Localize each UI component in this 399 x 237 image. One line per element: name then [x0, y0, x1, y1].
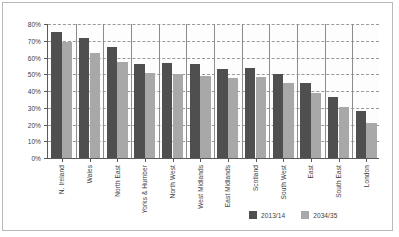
legend-label: 2013/14: [261, 212, 285, 219]
x-axis-tick: [311, 158, 312, 162]
gridline: [48, 158, 379, 159]
bar-series-2013-14: [245, 68, 255, 158]
x-axis-tick: [339, 158, 340, 162]
legend-item: 2013/14: [249, 211, 285, 219]
y-axis-tick: [44, 41, 48, 42]
bar-series-2034-35: [90, 53, 100, 158]
bar-series-2013-14: [217, 69, 227, 158]
x-axis-label: East: [307, 165, 314, 178]
y-axis-label: 80%: [28, 21, 41, 28]
category-separator: [297, 24, 298, 158]
y-axis-tick: [44, 91, 48, 92]
category-separator: [159, 24, 160, 158]
y-axis-label: 60%: [28, 54, 41, 61]
bar-series-2034-35: [117, 62, 127, 158]
x-axis-label: Yorks & Humber: [141, 165, 148, 213]
legend-swatch-icon: [249, 211, 257, 219]
y-axis-label: 30%: [28, 104, 41, 111]
category-separator: [269, 24, 270, 158]
bar-series-2013-14: [162, 63, 172, 158]
bar-series-2034-35: [200, 76, 210, 158]
y-axis-tick: [44, 108, 48, 109]
bar-series-2013-14: [134, 64, 144, 159]
x-axis-tick: [228, 158, 229, 162]
category-separator: [103, 24, 104, 158]
x-axis-tick: [173, 158, 174, 162]
chart-screenshot: 0%10%20%30%40%50%60%70%80% N. IrelandWal…: [0, 0, 399, 237]
category-separator: [131, 24, 132, 158]
figure-frame: 0%10%20%30%40%50%60%70%80% N. IrelandWal…: [2, 2, 393, 231]
legend-swatch-icon: [301, 211, 309, 219]
y-axis-label: 10%: [28, 138, 41, 145]
bar-series-2034-35: [311, 93, 321, 158]
y-axis-tick: [44, 158, 48, 159]
bar-series-2013-14: [107, 47, 117, 158]
bar-series-2034-35: [339, 107, 349, 158]
category-separator: [76, 24, 77, 158]
x-axis-label: North East: [114, 165, 121, 197]
x-axis-label: West Midlands: [197, 165, 204, 209]
x-axis-tick: [117, 158, 118, 162]
y-axis-tick: [44, 74, 48, 75]
y-axis-label: 70%: [28, 37, 41, 44]
x-axis-label: East Midlands: [224, 165, 231, 207]
x-axis-label: Scotland: [252, 165, 259, 191]
x-axis-tick: [90, 158, 91, 162]
x-axis-tick: [256, 158, 257, 162]
y-axis-label: 20%: [28, 121, 41, 128]
bar-series-2034-35: [366, 123, 376, 158]
x-axis-label: London: [363, 165, 370, 187]
x-axis-tick: [145, 158, 146, 162]
x-axis-label: South East: [335, 165, 342, 198]
category-separator: [352, 24, 353, 158]
bar-series-2034-35: [228, 78, 238, 158]
category-separator: [214, 24, 215, 158]
y-axis-label: 0%: [31, 155, 41, 162]
category-separator: [242, 24, 243, 158]
bar-series-2013-14: [273, 74, 283, 158]
x-axis-label: Wales: [86, 165, 93, 183]
bar-series-2013-14: [79, 38, 89, 158]
chart-legend: 2013/142034/35: [249, 211, 337, 219]
x-axis-label: N. Ireland: [58, 165, 65, 194]
bar-series-2034-35: [145, 73, 155, 158]
bar-series-2034-35: [173, 74, 183, 158]
y-axis-tick: [44, 141, 48, 142]
bar-series-2034-35: [283, 83, 293, 158]
x-axis-label: South West: [280, 165, 287, 199]
x-axis-tick: [366, 158, 367, 162]
y-axis-label: 40%: [28, 88, 41, 95]
y-axis-tick: [44, 24, 48, 25]
legend-label: 2034/35: [313, 212, 337, 219]
bar-series-2034-35: [256, 77, 266, 158]
y-axis-tick: [44, 58, 48, 59]
x-axis-label: North West: [169, 165, 176, 198]
y-axis-tick: [44, 125, 48, 126]
bar-series-2034-35: [62, 42, 72, 158]
plot-area: 0%10%20%30%40%50%60%70%80% N. IrelandWal…: [47, 24, 379, 159]
x-axis-tick: [283, 158, 284, 162]
bar-series-2013-14: [190, 64, 200, 158]
category-separator: [325, 24, 326, 158]
bar-series-2013-14: [356, 111, 366, 158]
bar-series-2013-14: [300, 83, 310, 158]
x-axis-tick: [62, 158, 63, 162]
legend-item: 2034/35: [301, 211, 337, 219]
bar-series-2013-14: [51, 32, 61, 158]
category-separator: [186, 24, 187, 158]
x-axis-tick: [200, 158, 201, 162]
y-axis-label: 50%: [28, 71, 41, 78]
bar-series-2013-14: [328, 97, 338, 158]
